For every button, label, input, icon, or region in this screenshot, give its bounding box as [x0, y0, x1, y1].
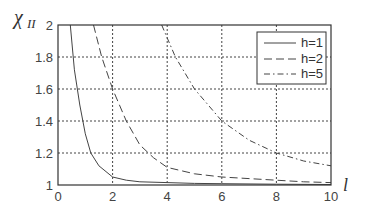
- y-axis-label: χ: [12, 6, 24, 29]
- x-tick-label: 10: [324, 189, 338, 204]
- y-tick-label: 1: [46, 178, 53, 193]
- legend-label-h2: h=2: [301, 51, 323, 66]
- x-tick-label: 6: [218, 189, 225, 204]
- chart: 024681011.21.41.61.82 χ II l h=1 h=2 h=5: [0, 0, 370, 211]
- x-tick-label: 4: [164, 189, 171, 204]
- x-tick-label: 2: [109, 189, 116, 204]
- y-axis-label-subscript: II: [26, 16, 36, 31]
- x-tick-label: 0: [54, 189, 61, 204]
- legend-label-h1: h=1: [301, 35, 323, 50]
- y-tick-label: 1.4: [35, 114, 53, 129]
- legend-label-h5: h=5: [301, 66, 323, 81]
- x-tick-label: 8: [273, 189, 280, 204]
- y-tick-label: 1.6: [35, 82, 53, 97]
- y-tick-label: 1.8: [35, 50, 53, 65]
- x-axis-label: l: [343, 175, 348, 195]
- y-tick-label: 1.2: [35, 146, 53, 161]
- legend: h=1 h=2 h=5: [257, 32, 326, 84]
- y-tick-label: 2: [46, 18, 53, 33]
